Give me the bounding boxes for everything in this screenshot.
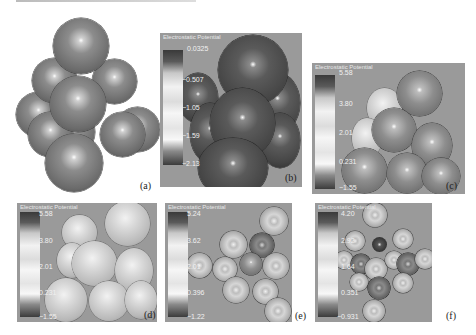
scale-tick: −0.931 (337, 313, 359, 320)
panel-label-a: (a) (140, 180, 151, 191)
panel-label-f: (f) (446, 310, 456, 321)
atom (393, 229, 413, 249)
atom (368, 277, 390, 299)
color-scale-bar (318, 212, 338, 317)
atom (50, 76, 106, 132)
panel-b: Electrostatic Potential 0.0325 −0.507 −1… (160, 33, 302, 187)
scale-tick: 3.80 (339, 100, 353, 107)
atom (263, 253, 289, 279)
scale-tick: −1.55 (339, 184, 357, 191)
scale-tick: 5.58 (339, 69, 353, 76)
scale-tick: −1.05 (182, 104, 200, 111)
atom (53, 18, 109, 74)
atom (45, 134, 103, 192)
atom (265, 298, 291, 322)
scale-tick: 3.80 (39, 237, 53, 244)
scale-tick: −1.22 (187, 313, 205, 320)
atom (89, 281, 129, 321)
panel-f: Electrostatic Potential 4.20 2.92 1.64 0… (315, 203, 432, 322)
top-rule (16, 0, 196, 2)
color-scale-bar (20, 212, 40, 317)
scale-tick: 0.396 (187, 289, 205, 296)
scale-tick: 2.01 (187, 263, 201, 270)
scale-tick: 1.64 (341, 263, 355, 270)
atom (72, 241, 117, 286)
panel-e: Electrostatic Potential 5.24 3.62 2.01 0… (165, 203, 292, 322)
scale-tick: 4.20 (341, 210, 355, 217)
scale-tick: 2.01 (39, 263, 53, 270)
scale-tick: 2.01 (339, 129, 353, 136)
atom (260, 207, 288, 235)
atom (397, 71, 442, 116)
atom (240, 253, 262, 275)
atom (220, 231, 247, 258)
color-scale-bar (315, 75, 335, 189)
scale-tick: 0.231 (39, 289, 57, 296)
panel-c: Electrostatic Potential 5.58 3.80 2.01 0… (312, 63, 465, 194)
scale-tick: 3.62 (187, 237, 201, 244)
atom (415, 249, 432, 269)
panel-label-c: (c) (446, 180, 457, 191)
panel-d: Electrostatic Potential 5.58 3.80 2.01 0… (17, 203, 157, 322)
scale-tick: −1.59 (182, 132, 200, 139)
panel-label-b: (b) (285, 172, 297, 183)
panel-label-e: (e) (295, 310, 306, 321)
scale-tick: 5.24 (187, 210, 201, 217)
scale-tick: 0.0325 (187, 45, 208, 52)
atom (387, 153, 427, 193)
panel-a (10, 12, 160, 192)
atom (372, 108, 416, 152)
panel-label-d: (d) (144, 309, 156, 320)
scale-tick: −2.13 (182, 160, 200, 167)
color-scale-bar (163, 50, 183, 165)
scale-tick: 2.92 (341, 237, 355, 244)
atom (393, 273, 413, 293)
scale-tick: −0.507 (182, 76, 204, 83)
atom (100, 112, 145, 157)
scale-tick: 0.351 (341, 289, 359, 296)
scale-tick: −1.55 (39, 313, 57, 320)
scale-tick: 5.58 (39, 210, 53, 217)
scale-tick: 0.231 (339, 158, 357, 165)
atom (223, 277, 249, 303)
atom (363, 300, 385, 322)
atom (105, 203, 150, 246)
color-scale-bar (168, 212, 188, 317)
legend-title: Electrostatic Potential (163, 34, 221, 40)
atom (372, 237, 387, 252)
